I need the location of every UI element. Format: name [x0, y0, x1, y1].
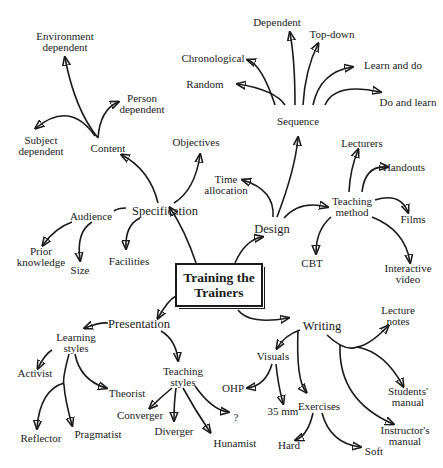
node-presentation[interactable]: Presentation — [108, 318, 170, 331]
node-environment-dependent[interactable]: Environmentdependent — [36, 31, 93, 53]
node-chronological[interactable]: Chronological — [182, 53, 245, 64]
node-soft[interactable]: Soft — [365, 446, 383, 457]
node-converger[interactable]: Converger — [117, 410, 163, 421]
central-topic-line1: Training the — [183, 270, 254, 285]
label-line: allocation — [204, 185, 247, 196]
node-exercises[interactable]: Exercises — [298, 401, 340, 412]
node-facilities[interactable]: Facilities — [109, 256, 149, 267]
node-lecture-notes[interactable]: Lecturenotes — [381, 305, 415, 327]
node-question[interactable]: ? — [234, 412, 239, 423]
node-writing[interactable]: Writing — [303, 320, 341, 333]
node-design[interactable]: Design — [254, 223, 289, 236]
node-teaching-method[interactable]: Teachingmethod — [332, 196, 372, 218]
label-line: manual — [388, 397, 428, 408]
central-topic-box[interactable]: Training the Trainers — [175, 263, 263, 307]
node-ohp[interactable]: OHP — [222, 383, 244, 394]
node-diverger[interactable]: Diverger — [155, 426, 194, 437]
node-films[interactable]: Films — [400, 214, 425, 225]
node-hunamist[interactable]: Hunamist — [214, 438, 257, 449]
node-cbt[interactable]: CBT — [301, 258, 322, 269]
label-line: dependent — [36, 42, 93, 53]
node-theorist[interactable]: Theorist — [109, 388, 146, 399]
node-lecturers[interactable]: Lecturers — [341, 138, 383, 149]
node-visuals[interactable]: Visuals — [257, 351, 289, 362]
label-line: method — [332, 207, 372, 218]
node-reflector[interactable]: Reflector — [21, 433, 62, 444]
node-do-and-learn[interactable]: Do and learn — [380, 97, 437, 108]
node-activist[interactable]: Activist — [18, 368, 53, 379]
node-specification[interactable]: Specification — [132, 205, 198, 218]
node-students-manual[interactable]: Students'manual — [388, 386, 428, 408]
node-subject-dependent[interactable]: Subjectdependent — [18, 135, 63, 157]
label-line: notes — [381, 316, 415, 327]
node-handouts[interactable]: Handouts — [383, 162, 425, 173]
central-topic-line2: Trainers — [183, 285, 254, 300]
label-line: styles — [56, 343, 96, 354]
node-content[interactable]: Content — [91, 143, 126, 154]
label-line: video — [384, 274, 431, 285]
node-prior-knowledge[interactable]: Priorknowledge — [17, 246, 65, 268]
node-top-down[interactable]: Top-down — [309, 29, 354, 40]
node-learn-and-do[interactable]: Learn and do — [364, 60, 422, 71]
node-objectives[interactable]: Objectives — [172, 137, 219, 148]
node-time-allocation[interactable]: Timeallocation — [204, 174, 247, 196]
node-instructors-manual[interactable]: Instructor'smanual — [380, 425, 429, 447]
node-learning-styles[interactable]: Learningstyles — [56, 332, 96, 354]
node-dependent[interactable]: Dependent — [253, 17, 301, 28]
node-audience[interactable]: Audience — [70, 211, 112, 222]
label-line: dependent — [18, 146, 63, 157]
label-line: manual — [380, 436, 429, 447]
label-line: dependent — [119, 104, 164, 115]
node-random[interactable]: Random — [186, 79, 223, 90]
node-sequence[interactable]: Sequence — [277, 116, 319, 127]
node-interactive-video[interactable]: Interactivevideo — [384, 263, 431, 285]
node-size[interactable]: Size — [71, 265, 90, 276]
node-hard[interactable]: Hard — [278, 440, 300, 451]
node-pragmatist[interactable]: Pragmatist — [74, 429, 121, 440]
node-person-dependent[interactable]: Persondependent — [119, 93, 164, 115]
label-line: knowledge — [17, 257, 65, 268]
node-teaching-styles[interactable]: Teachingstyles — [163, 366, 203, 388]
label-line: styles — [163, 377, 203, 388]
node-35mm[interactable]: 35 mm — [268, 406, 299, 417]
